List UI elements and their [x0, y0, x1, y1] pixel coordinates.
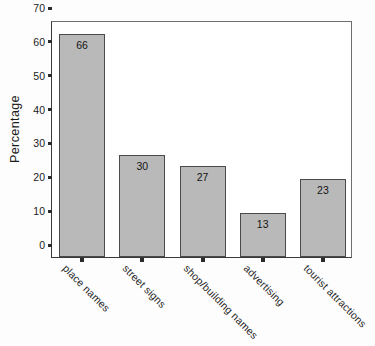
bar-value-label: 66: [59, 39, 105, 51]
y-axis-tick-label: 60: [33, 36, 45, 48]
bars-layer: 6630271323: [52, 22, 351, 257]
bar-group[interactable]: 23: [300, 179, 346, 257]
y-axis-tick: 70: [33, 2, 52, 14]
bar-group[interactable]: 27: [180, 166, 226, 257]
y-axis-tick: 0: [39, 239, 52, 251]
bar-value-label: 30: [119, 160, 165, 172]
y-axis-tick: 10: [33, 205, 52, 217]
y-axis-tick-mark: [48, 7, 52, 10]
y-axis-tick-label: 20: [33, 171, 45, 183]
y-axis-tick-label: 0: [39, 239, 45, 251]
x-axis-tick-label: tourist attractions: [301, 262, 369, 330]
y-axis-tick: 20: [33, 171, 52, 183]
y-axis-tick-label: 10: [33, 205, 45, 217]
bar[interactable]: [59, 34, 105, 257]
bar-group[interactable]: 66: [59, 34, 105, 257]
y-axis-tick: 30: [33, 137, 52, 149]
y-axis-tick-label: 70: [33, 2, 45, 14]
y-axis-tick-label: 40: [33, 104, 45, 116]
bar-chart-figure: Percentage 010203040506070 6630271323 pl…: [0, 0, 375, 346]
x-axis-labels: place namesstreet signsshop/building nam…: [51, 262, 352, 346]
bar-value-label: 27: [180, 171, 226, 183]
y-axis-tick: 40: [33, 104, 52, 116]
y-axis-tick: 50: [33, 70, 52, 82]
x-axis-tick-label: place names: [61, 262, 113, 314]
plot-area: 010203040506070 6630271323: [51, 21, 352, 258]
y-axis-tick: 60: [33, 36, 52, 48]
y-axis-tick-label: 30: [33, 137, 45, 149]
bar-group[interactable]: 13: [240, 213, 286, 257]
y-axis-title-text: Percentage: [8, 95, 22, 163]
bar-value-label: 13: [240, 218, 286, 230]
y-axis-title: Percentage: [0, 0, 30, 258]
bar-value-label: 23: [300, 184, 346, 196]
y-axis-tick-label: 50: [33, 70, 45, 82]
x-axis-tick-label: advertising: [241, 262, 287, 308]
x-axis-tick-label: street signs: [121, 262, 169, 310]
bar-group[interactable]: 30: [119, 155, 165, 257]
